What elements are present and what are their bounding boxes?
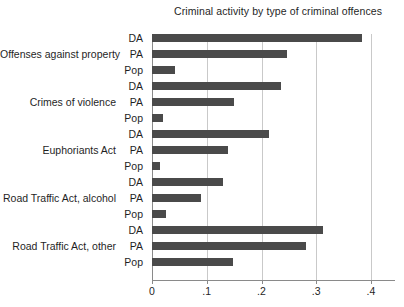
x-tick-label: .2 (257, 285, 266, 297)
bar (152, 82, 281, 90)
series-label-pop: Pop (0, 64, 148, 76)
series-label-pop: Pop (0, 208, 148, 220)
series-label-da: DA (0, 32, 148, 44)
bar (152, 242, 306, 250)
bar (152, 194, 201, 202)
bar (152, 258, 233, 266)
bar (152, 178, 223, 186)
x-tick-label: .1 (202, 285, 211, 297)
tick-mark (207, 280, 208, 284)
bar (152, 146, 228, 154)
tick-mark (262, 280, 263, 284)
bar (152, 114, 163, 122)
x-tick-label: .4 (367, 285, 376, 297)
bar (152, 66, 175, 74)
category-label: Euphoriants Act (0, 144, 122, 156)
gridline-p4 (371, 34, 372, 280)
x-tick-label: 0 (149, 285, 155, 297)
series-label-pop: Pop (0, 160, 148, 172)
category-label: Road Traffic Act, alcohol (0, 192, 122, 204)
bar (152, 34, 362, 42)
x-axis-line (152, 280, 395, 281)
bar (152, 98, 234, 106)
series-label-da: DA (0, 128, 148, 140)
bar (152, 162, 160, 170)
tick-mark (316, 280, 317, 284)
bar (152, 50, 287, 58)
series-label-da: DA (0, 176, 148, 188)
tick-mark (152, 280, 153, 284)
category-label: Road Traffic Act, other (0, 240, 122, 252)
series-label-da: DA (0, 224, 148, 236)
bar (152, 226, 323, 234)
bar (152, 210, 166, 218)
x-tick-label: .3 (312, 285, 321, 297)
series-label-pop: Pop (0, 112, 148, 124)
series-label-pop: Pop (0, 256, 148, 268)
category-label: Offenses against property (0, 48, 122, 60)
plot-area (152, 34, 371, 280)
category-label: Crimes of violence (0, 96, 122, 108)
tick-mark (371, 280, 372, 284)
chart-title: Criminal activity by type of criminal of… (152, 5, 404, 17)
chart-container: Criminal activity by type of criminal of… (0, 0, 404, 307)
series-label-da: DA (0, 80, 148, 92)
bar (152, 130, 269, 138)
